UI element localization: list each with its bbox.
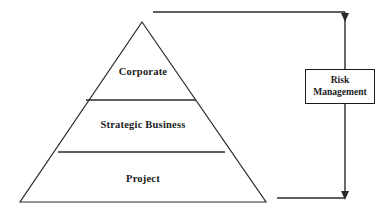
arrowhead-top-icon xyxy=(341,13,349,22)
pyramid-tier-label-corporate: Corporate xyxy=(119,66,167,77)
risk-management-label-line-1: Risk xyxy=(331,75,349,87)
risk-management-label-line-2: Management xyxy=(313,87,366,99)
pyramid-tier-label-project: Project xyxy=(126,173,160,184)
diagram-canvas: Corporate Strategic Business Project Ris… xyxy=(0,0,392,215)
diagram-graphics xyxy=(0,0,392,215)
pyramid-tier-label-strategic-business: Strategic Business xyxy=(101,119,186,130)
risk-management-box: Risk Management xyxy=(305,69,375,104)
